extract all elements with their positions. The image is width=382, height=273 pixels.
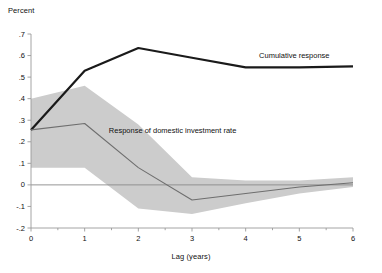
- x-tick-label: 0: [21, 234, 41, 243]
- y-tick-label: .2: [9, 137, 25, 146]
- y-tick-label: .3: [9, 116, 25, 125]
- x-tick-label: 3: [182, 234, 202, 243]
- x-tick-label: 5: [289, 234, 309, 243]
- y-axis-title: Percent: [8, 6, 35, 15]
- x-axis-title: Lag (years): [0, 252, 382, 261]
- y-tick-label: .6: [9, 51, 25, 60]
- chart-figure: Percent .7.6.5.4.3.2.10-.1-.2 0123456 Cu…: [0, 0, 382, 273]
- y-tick-label: .7: [9, 30, 25, 39]
- y-tick-label: -.2: [9, 224, 25, 233]
- x-tick-label: 4: [236, 234, 256, 243]
- confidence-band: [31, 86, 353, 214]
- y-tick-label: -.1: [9, 202, 25, 211]
- y-tick-label: 0: [9, 180, 25, 189]
- series-label-1: Response of domestic investment rate: [109, 126, 237, 135]
- data-series: [31, 48, 353, 200]
- y-tick-label: .4: [9, 94, 25, 103]
- confidence-band-area: [31, 86, 353, 214]
- plot-area: [0, 0, 382, 273]
- y-tick-label: .1: [9, 159, 25, 168]
- y-tick-label: .5: [9, 73, 25, 82]
- x-tick-label: 1: [75, 234, 95, 243]
- series-label-0: Cumulative response: [259, 51, 329, 60]
- x-tick-label: 2: [128, 234, 148, 243]
- x-tick-label: 6: [343, 234, 363, 243]
